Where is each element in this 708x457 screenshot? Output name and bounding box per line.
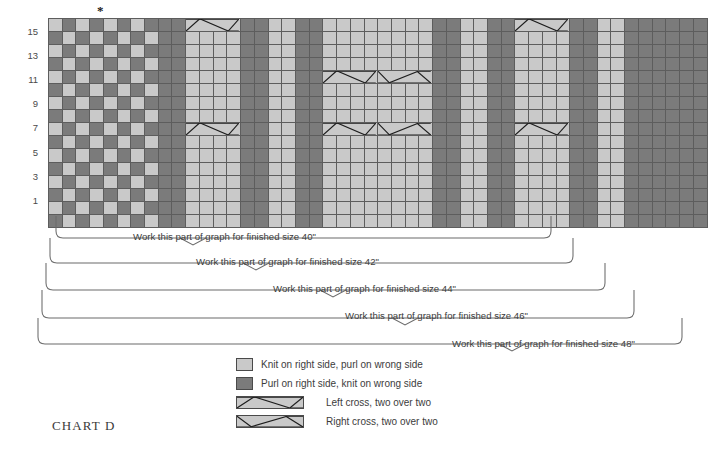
stitch-cell-dark	[488, 188, 502, 201]
stitch-cell-light	[556, 97, 570, 110]
stitch-cell-dark	[309, 110, 323, 123]
stitch-cell-dark	[172, 136, 186, 149]
stitch-cell-dark	[638, 188, 652, 201]
stitch-cell-light	[460, 32, 474, 45]
stitch-cell-light	[378, 149, 392, 162]
stitch-cell-light	[611, 188, 625, 201]
stitch-cell-dark	[309, 162, 323, 175]
stitch-cell-light	[323, 84, 337, 97]
stitch-cell-light	[474, 110, 488, 123]
stitch-cell-dark	[693, 19, 707, 32]
stitch-cell-dark	[76, 84, 90, 97]
stitch-cell-light	[49, 45, 63, 58]
cable-cell-left-cross	[515, 123, 570, 136]
stitch-cell-dark	[488, 58, 502, 71]
stitch-cell-dark	[103, 32, 117, 45]
stitch-cell-dark	[158, 201, 172, 214]
bracket-label-size-42: Work this part of graph for finished siz…	[196, 256, 379, 267]
stitch-cell-light	[419, 201, 433, 214]
stitch-cell-dark	[652, 136, 666, 149]
stitch-cell-dark	[309, 32, 323, 45]
stitch-cell-dark	[488, 175, 502, 188]
stitch-cell-light	[282, 162, 296, 175]
row-number-left-7: 7	[14, 123, 38, 133]
stitch-cell-light	[419, 45, 433, 58]
stitch-cell-dark	[666, 71, 680, 84]
stitch-cell-light	[227, 136, 241, 149]
stitch-cell-dark	[501, 149, 515, 162]
stitch-cell-dark	[62, 149, 76, 162]
stitch-cell-light	[323, 149, 337, 162]
bracket-label-size-44: Work this part of graph for finished siz…	[273, 283, 456, 294]
stitch-cell-light	[515, 201, 529, 214]
stitch-cell-dark	[158, 45, 172, 58]
stitch-cell-dark	[90, 175, 104, 188]
stitch-cell-dark	[433, 123, 447, 136]
stitch-cell-light	[460, 45, 474, 58]
stitch-cell-dark	[131, 58, 145, 71]
stitch-grid-row	[49, 175, 708, 188]
stitch-cell-dark	[295, 19, 309, 32]
stitch-cell-light	[529, 97, 543, 110]
stitch-cell-dark	[295, 188, 309, 201]
stitch-cell-light	[145, 84, 159, 97]
stitch-cell-dark	[446, 201, 460, 214]
cable-cell-right-cross	[378, 71, 433, 84]
stitch-cell-light	[76, 45, 90, 58]
stitch-cell-light	[76, 123, 90, 136]
stitch-cell-dark	[172, 175, 186, 188]
stitch-grid-row	[49, 123, 708, 136]
stitch-cell-dark	[501, 123, 515, 136]
stitch-cell-dark	[693, 110, 707, 123]
stitch-cell-dark	[295, 84, 309, 97]
stitch-grid-row	[49, 71, 708, 84]
stitch-cell-light	[405, 201, 419, 214]
stitch-cell-light	[515, 32, 529, 45]
stitch-cell-dark	[584, 45, 598, 58]
stitch-cell-dark	[241, 201, 255, 214]
stitch-cell-light	[337, 188, 351, 201]
stitch-cell-dark	[309, 188, 323, 201]
stitch-cell-light	[597, 45, 611, 58]
stitch-cell-light	[556, 175, 570, 188]
size-brackets: Work this part of graph for finished siz…	[0, 214, 708, 354]
stitch-cell-light	[405, 45, 419, 58]
stitch-cell-light	[556, 149, 570, 162]
stitch-cell-light	[213, 162, 227, 175]
stitch-cell-light	[460, 201, 474, 214]
stitch-cell-light	[556, 188, 570, 201]
stitch-cell-light	[103, 149, 117, 162]
stitch-cell-light	[405, 97, 419, 110]
stitch-cell-light	[337, 136, 351, 149]
stitch-cell-dark	[433, 71, 447, 84]
stitch-cell-dark	[666, 136, 680, 149]
stitch-cell-light	[76, 149, 90, 162]
stitch-cell-light	[405, 188, 419, 201]
stitch-cell-light	[529, 110, 543, 123]
stitch-cell-light	[337, 175, 351, 188]
stitch-cell-dark	[158, 188, 172, 201]
stitch-cell-light	[378, 97, 392, 110]
stitch-cell-light	[405, 110, 419, 123]
stitch-cell-dark	[584, 32, 598, 45]
stitch-cell-light	[90, 188, 104, 201]
stitch-cell-dark	[158, 19, 172, 32]
stitch-cell-light	[62, 110, 76, 123]
stitch-cell-dark	[158, 71, 172, 84]
stitch-cell-dark	[49, 162, 63, 175]
stitch-cell-dark	[625, 123, 639, 136]
stitch-cell-light	[282, 123, 296, 136]
stitch-cell-dark	[49, 32, 63, 45]
stitch-cell-dark	[49, 110, 63, 123]
stitch-cell-dark	[693, 149, 707, 162]
stitch-cell-light	[337, 162, 351, 175]
stitch-cell-light	[378, 136, 392, 149]
stitch-cell-dark	[584, 19, 598, 32]
stitch-cell-dark	[117, 149, 131, 162]
stitch-cell-light	[474, 84, 488, 97]
stitch-cell-light	[337, 110, 351, 123]
stitch-cell-dark	[501, 97, 515, 110]
stitch-cell-light	[350, 162, 364, 175]
stitch-cell-light	[227, 97, 241, 110]
stitch-cell-light	[350, 45, 364, 58]
